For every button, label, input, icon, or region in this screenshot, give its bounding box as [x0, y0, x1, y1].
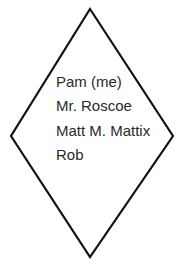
name-item-pam: Pam (me): [56, 73, 122, 91]
name-item-matt-mattix: Matt M. Mattix: [56, 122, 150, 140]
name-item-rob: Rob: [56, 146, 84, 164]
name-item-mr-roscoe: Mr. Roscoe: [56, 97, 132, 115]
diagram-canvas: Pam (me) Mr. Roscoe Matt M. Mattix Rob: [0, 0, 177, 273]
